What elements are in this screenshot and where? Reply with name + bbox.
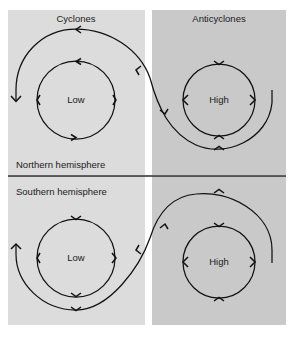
column-heading-cyclones: Cyclones (56, 13, 95, 24)
center-label-high-northern: High (209, 94, 229, 105)
center-label-high-southern: High (209, 256, 229, 267)
center-label-low-southern: Low (67, 252, 85, 263)
center-label-low-northern: Low (67, 94, 85, 105)
column-heading-anticyclones: Anticyclones (192, 13, 246, 24)
panel-northern-cyclone-bg (8, 10, 145, 175)
panel-northern-anticyclone-bg (152, 10, 286, 175)
panel-southern-cyclone-bg (8, 176, 145, 325)
panel-southern-anticyclone-bg (152, 176, 286, 325)
label-northern-hemisphere: Northern hemisphere (16, 159, 105, 170)
label-southern-hemisphere: Southern hemisphere (16, 186, 107, 197)
circulation-diagram: Cyclones Anticyclones (0, 0, 290, 343)
